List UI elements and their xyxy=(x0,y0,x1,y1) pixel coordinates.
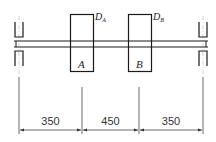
disk-b-label: B xyxy=(136,58,143,70)
disk-a-label: A xyxy=(77,58,85,70)
shaft-diagram: DA A DB B 350 450 350 xyxy=(0,0,216,142)
dimension-label-left: 350 xyxy=(41,115,59,127)
dimension-label-right: 350 xyxy=(162,115,180,127)
disk-a-diameter-label: DA xyxy=(94,11,106,23)
disk-b-diameter-label: DB xyxy=(152,11,164,23)
shaft xyxy=(14,41,208,47)
dimension-label-middle: 450 xyxy=(101,115,119,127)
